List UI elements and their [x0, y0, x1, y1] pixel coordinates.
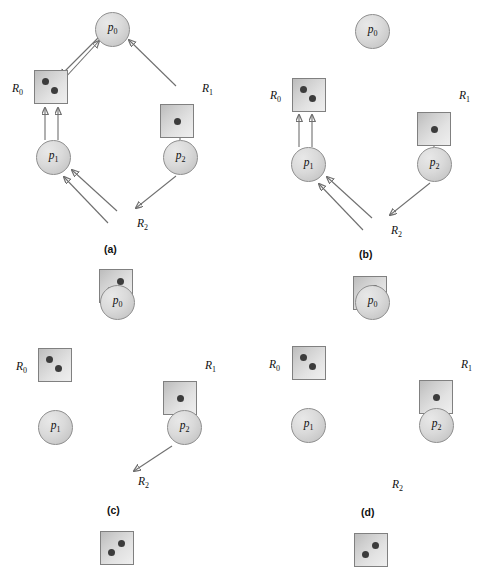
instance-dot: [431, 126, 438, 133]
node-R0[interactable]: [292, 346, 326, 380]
node-R1-label: R1: [205, 360, 216, 374]
node-R2[interactable]: [354, 533, 388, 567]
node-p1[interactable]: p1: [36, 140, 71, 175]
edge-R2-to-p1-2: [64, 177, 108, 223]
instance-dot: [372, 542, 379, 549]
node-R2-label: R2: [137, 218, 148, 232]
panel-c: p0 R0 R1 p1 p2 R2 (c): [0, 273, 247, 546]
edge-R1-to-p0: [129, 40, 176, 86]
edge-R2-to-p1-1: [72, 170, 117, 211]
node-p0[interactable]: p0: [355, 285, 390, 320]
node-R2-label: R2: [392, 479, 403, 493]
node-R1[interactable]: [160, 104, 194, 138]
node-p1[interactable]: p1: [291, 408, 326, 443]
node-p0-label: p0: [368, 295, 378, 309]
node-p0-label: p0: [368, 24, 378, 38]
node-p2-label: p2: [430, 157, 440, 171]
node-p2[interactable]: p2: [167, 410, 202, 445]
node-R0[interactable]: [38, 348, 72, 382]
panel-a-caption: (a): [104, 243, 117, 255]
edge-R2-to-p1-1: [327, 177, 372, 218]
node-R2-label: R2: [138, 476, 149, 490]
node-R0-label: R0: [269, 359, 280, 373]
panel-a: p0 R0 R1 p1 p2 R2 (a): [0, 0, 247, 273]
instance-dot: [46, 356, 53, 363]
instance-dot: [362, 551, 369, 558]
instance-dot: [174, 118, 181, 125]
panel-c-caption: (c): [107, 504, 120, 516]
instance-dot: [42, 78, 49, 85]
node-p1[interactable]: p1: [291, 147, 326, 182]
instance-dot: [177, 395, 184, 402]
node-p1-label: p1: [51, 420, 61, 434]
node-R1[interactable]: [417, 112, 451, 146]
node-R0[interactable]: [292, 78, 326, 112]
instance-dot: [309, 95, 316, 102]
node-p2-label: p2: [432, 418, 442, 432]
node-p0-label: p0: [113, 295, 123, 309]
edge-p2-to-R2: [136, 176, 176, 208]
node-R1-label: R1: [202, 83, 213, 97]
node-p0[interactable]: p0: [95, 12, 130, 47]
node-p0[interactable]: p0: [100, 285, 135, 320]
node-R2-label: R2: [391, 225, 402, 239]
panel-b-caption: (b): [359, 248, 372, 260]
edge-R2-to-p1-2: [319, 184, 363, 230]
edge-p2-to-R2: [390, 183, 430, 215]
panel-d-caption: (d): [361, 506, 374, 518]
panel-b: p0 R0 R1 p1 p2 R2 (b): [247, 0, 494, 273]
instance-dot: [51, 87, 58, 94]
instance-dot: [118, 540, 125, 547]
node-R2[interactable]: [100, 531, 134, 565]
node-R1-label: R1: [459, 90, 470, 104]
node-p0-label: p0: [108, 22, 118, 36]
instance-dot: [433, 394, 440, 401]
instance-dot: [55, 365, 62, 372]
node-p2[interactable]: p2: [419, 408, 454, 443]
edge-p2-to-R2: [134, 446, 172, 471]
node-p2-label: p2: [180, 420, 190, 434]
instance-dot: [300, 86, 307, 93]
node-p1-label: p1: [304, 418, 314, 432]
node-p2-label: p2: [176, 150, 186, 164]
node-R0-label: R0: [16, 361, 27, 375]
node-R0-label: R0: [12, 83, 23, 97]
node-R0-label: R0: [270, 90, 281, 104]
node-p2[interactable]: p2: [417, 147, 452, 182]
node-p1-label: p1: [49, 150, 59, 164]
node-p2[interactable]: p2: [163, 140, 198, 175]
node-R1-label: R1: [461, 359, 472, 373]
node-p0[interactable]: p0: [355, 14, 390, 49]
instance-dot: [108, 549, 115, 556]
node-R0[interactable]: [34, 70, 68, 104]
node-p1[interactable]: p1: [38, 410, 73, 445]
panel-d: p0 R0 R1 p1 p2 R2 (d): [247, 273, 494, 546]
instance-dot: [309, 363, 316, 370]
node-p1-label: p1: [304, 157, 314, 171]
instance-dot: [300, 354, 307, 361]
